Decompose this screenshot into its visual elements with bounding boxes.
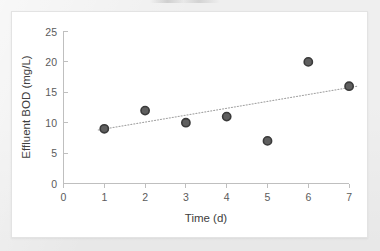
chart-card: 25 20 15 10 5 0 0 1: [11, 11, 368, 238]
data-point[interactable]: [223, 113, 231, 121]
scatter-chart: 25 20 15 10 5 0 0 1: [12, 12, 369, 239]
x-tick-label-6: 6: [305, 191, 311, 203]
y-tick-label-10: 10: [45, 117, 57, 129]
x-tick-label-5: 5: [265, 191, 271, 203]
x-tick-label-0: 0: [61, 191, 67, 203]
y-tick-label-25: 25: [45, 26, 57, 38]
y-axis-title: Effluent BOD (mg/L): [20, 55, 32, 158]
data-series-effluent-bod: [100, 58, 353, 145]
axes: [64, 31, 350, 184]
x-tick-label-4: 4: [224, 191, 230, 203]
y-tick-label-0: 0: [51, 178, 57, 190]
data-point[interactable]: [263, 137, 271, 145]
x-tick-label-1: 1: [101, 191, 107, 203]
y-axis-ticks: [64, 32, 68, 184]
x-tick-label-2: 2: [142, 191, 148, 203]
x-tick-label-7: 7: [346, 191, 352, 203]
data-point[interactable]: [345, 82, 353, 90]
data-point[interactable]: [100, 125, 108, 133]
figure-root: 25 20 15 10 5 0 0 1: [0, 0, 380, 251]
y-tick-label-5: 5: [51, 147, 57, 159]
trendline: [98, 86, 357, 130]
x-axis-title: Time (d): [185, 212, 228, 224]
y-axis-tick-labels: 25 20 15 10 5 0: [45, 26, 57, 190]
x-axis-tick-labels: 0 1 2 3 4 5 6 7: [61, 191, 353, 203]
data-point[interactable]: [141, 107, 149, 115]
x-tick-label-3: 3: [183, 191, 189, 203]
data-point[interactable]: [182, 119, 190, 127]
y-tick-label-20: 20: [45, 56, 57, 68]
y-tick-label-15: 15: [45, 86, 57, 98]
data-point[interactable]: [304, 58, 312, 66]
clipped-edge-artifact: [150, 0, 220, 3]
x-axis-ticks: [64, 184, 350, 188]
